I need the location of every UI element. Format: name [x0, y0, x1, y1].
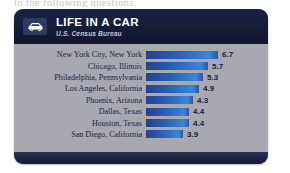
chart-value-label: 4.3	[197, 96, 208, 105]
chart-bar	[146, 73, 203, 81]
chart-row: New York City, New York6.7	[14, 49, 268, 60]
chart-row: Los Angeles, California4.9	[14, 83, 268, 94]
chart-value-label: 5.3	[207, 73, 218, 82]
chart-bar	[146, 119, 189, 127]
chart-bar	[146, 51, 218, 59]
bar-chart: New York City, New York6.7Chicago, Illin…	[14, 44, 268, 152]
chart-row-bar-area: 4.9	[146, 84, 268, 93]
chart-row-bar-area: 4.3	[146, 96, 268, 105]
chart-bar	[146, 62, 208, 70]
chart-bar	[146, 130, 183, 138]
chart-row: Philadelphia, Pennsylvania5.3	[14, 72, 268, 83]
chart-row-label: New York City, New York	[14, 50, 146, 59]
figure-header: LIFE IN A CAR U.S. Census Bureau	[14, 9, 268, 44]
figure-source: U.S. Census Bureau	[56, 29, 139, 38]
chart-row-label: Dallas, Texas	[14, 107, 146, 116]
header-text-block: LIFE IN A CAR U.S. Census Bureau	[56, 16, 139, 38]
chart-bar	[146, 85, 199, 93]
chart-row: Houston, Texas4.4	[14, 117, 268, 128]
chart-value-label: 6.7	[222, 50, 233, 59]
chart-value-label: 4.4	[193, 119, 204, 128]
bar-chart-rows: New York City, New York6.7Chicago, Illin…	[14, 49, 268, 140]
chart-row-label: Chicago, Illinois	[14, 62, 146, 71]
chart-row-label: Los Angeles, California	[14, 84, 146, 93]
chart-row: San Diego, California3.9	[14, 129, 268, 140]
chart-row-bar-area: 6.7	[146, 50, 268, 59]
chart-bar	[146, 96, 193, 104]
chart-row: Chicago, Illinois5.7	[14, 60, 268, 71]
chart-value-label: 5.7	[212, 62, 223, 71]
figure-footer-strip	[14, 152, 268, 164]
chart-row-label: Houston, Texas	[14, 119, 146, 128]
chart-row-label: Phoenix, Arizona	[14, 96, 146, 105]
chart-row-label: Philadelphia, Pennsylvania	[14, 73, 146, 82]
chart-value-label: 4.4	[193, 107, 204, 116]
car-icon	[23, 18, 47, 35]
life-in-a-car-figure-card: LIFE IN A CAR U.S. Census Bureau New Yor…	[14, 9, 268, 164]
chart-row-bar-area: 5.7	[146, 62, 268, 71]
chart-row-label: San Diego, California	[14, 130, 146, 139]
chart-bar	[146, 108, 189, 116]
chart-row-bar-area: 3.9	[146, 130, 268, 139]
chart-row-bar-area: 4.4	[146, 107, 268, 116]
page-cutoff-text: to the following questions.	[14, 0, 214, 7]
chart-row-bar-area: 4.4	[146, 119, 268, 128]
chart-row: Phoenix, Arizona4.3	[14, 95, 268, 106]
chart-row-bar-area: 5.3	[146, 73, 268, 82]
chart-value-label: 4.9	[203, 84, 214, 93]
chart-value-label: 3.9	[187, 130, 198, 139]
chart-row: Dallas, Texas4.4	[14, 106, 268, 117]
figure-title: LIFE IN A CAR	[56, 16, 139, 28]
